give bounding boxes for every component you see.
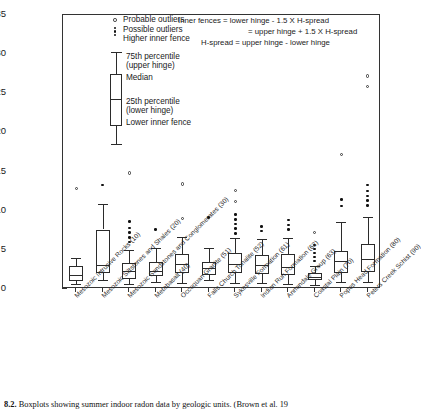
possible-outlier-point	[366, 204, 369, 207]
upper-inner-fence-cap	[283, 238, 293, 239]
median-line	[69, 275, 83, 276]
lower-inner-fence-cap	[71, 284, 81, 285]
possible-outlier-point	[287, 228, 290, 231]
possible-outlier-point	[287, 219, 290, 222]
legend-label-higher-inner-fence: Higher inner fence	[123, 34, 190, 45]
figure-caption-number: 8.2.	[4, 400, 17, 409]
possible-outlier-point	[287, 224, 290, 227]
y-tick-label: 25	[0, 87, 6, 97]
figure-caption-text: Boxplots showing summer indoor radon dat…	[19, 400, 288, 409]
probable-outlier-point	[128, 171, 131, 174]
probable-outlier-point	[234, 189, 237, 192]
lower-inner-fence-cap	[124, 284, 134, 285]
upper-whisker	[368, 217, 369, 244]
possible-outlier-point	[260, 225, 263, 228]
lower-inner-fence-cap	[257, 283, 267, 284]
hinge-box	[69, 266, 83, 281]
upper-inner-fence-cap	[363, 217, 373, 218]
possible-outlier-point	[234, 218, 237, 221]
y-tick-label: 35	[0, 9, 6, 19]
possible-outlier-point	[366, 184, 369, 187]
legend-schematic-boxplot	[109, 37, 123, 145]
boxplot-10	[69, 15, 83, 289]
boxplot-52	[202, 15, 216, 289]
formula-h-spread: H-spread = upper hinge - lower hinge	[201, 37, 330, 48]
possible-outlier-point	[234, 213, 237, 216]
lower-inner-fence-cap	[283, 284, 293, 285]
figure-caption: 8.2. Boxplots showing summer indoor rado…	[4, 400, 388, 409]
probable-outlier-point	[366, 85, 369, 88]
upper-whisker	[341, 222, 342, 251]
boxplot-80	[334, 15, 348, 289]
probable-outlier-point	[366, 74, 369, 77]
formula-inner-fences-lower: Inner fences = lower hinge - 1.5 X H-spr…	[178, 15, 329, 26]
upper-inner-fence-cap	[336, 222, 346, 223]
possible-outlier-point	[366, 199, 369, 202]
probable-outlier-point	[234, 200, 237, 203]
possible-outlier-point	[128, 220, 131, 223]
probable-outlier-point	[181, 217, 184, 220]
lower-whisker	[182, 273, 183, 282]
possible-outlier-point	[128, 227, 131, 230]
y-tick-label: 10	[0, 205, 6, 215]
lower-inner-fence-cap	[230, 283, 240, 284]
legend-lower-whisker	[116, 126, 117, 144]
upper-whisker	[76, 258, 77, 267]
lower-inner-fence-cap	[177, 283, 187, 284]
y-tick-label: 5	[0, 244, 6, 254]
upper-inner-fence-cap	[98, 204, 108, 205]
possible-outlier-point	[366, 195, 369, 198]
lower-inner-fence-cap	[98, 280, 108, 281]
boxplot-61	[228, 15, 242, 289]
y-tick-label: 20	[0, 126, 6, 136]
probable-outlier-point	[340, 153, 343, 156]
possible-outlier-point	[366, 190, 369, 193]
upper-inner-fence-cap	[71, 258, 81, 259]
possible-outlier-point	[154, 228, 157, 231]
legend-median-line	[110, 99, 122, 100]
lower-whisker	[235, 273, 236, 282]
y-tick-label: 0	[0, 283, 6, 293]
possible-outlier-point	[340, 205, 343, 208]
possible-outlier-point	[234, 227, 237, 230]
possible-outlier-point	[313, 256, 316, 259]
upper-whisker	[156, 248, 157, 263]
possible-outlier-point	[260, 230, 263, 233]
boxplot-20	[96, 15, 110, 289]
legend-annotation-upper-hinge-line2: (upper hinge)	[126, 61, 175, 72]
possible-outlier-point	[340, 198, 343, 201]
legend-upper-fence-cap	[111, 52, 122, 53]
boxplot-90	[361, 15, 375, 289]
probable-outlier-point	[181, 182, 184, 185]
formula-inner-fences-upper: = upper hinge + 1.5 X H-spread	[248, 26, 357, 37]
probable-outlier-point	[313, 231, 316, 234]
possible-outlier-point	[234, 223, 237, 226]
lower-whisker	[288, 275, 289, 284]
lower-inner-fence-cap	[204, 280, 214, 281]
upper-inner-fence-cap	[257, 239, 267, 240]
upper-whisker	[209, 248, 210, 261]
y-tick-mark	[62, 288, 67, 289]
possible-outlier-point	[234, 232, 237, 235]
lower-inner-fence-cap	[336, 282, 346, 283]
possible-outlier-point	[128, 231, 131, 234]
legend-upper-whisker	[116, 52, 117, 74]
legend-box	[110, 74, 122, 126]
upper-whisker	[235, 238, 236, 253]
y-tick-label: 15	[0, 166, 6, 176]
lower-inner-fence-cap	[363, 282, 373, 283]
possible-outlier-point	[101, 184, 104, 187]
legend-probable-outlier-icon	[113, 18, 117, 22]
upper-whisker	[129, 250, 130, 263]
lower-whisker	[262, 274, 263, 283]
upper-inner-fence-cap	[204, 248, 214, 249]
legend-annotation-median: Median	[126, 73, 153, 84]
legend-annotation-lower-inner-fence: Lower inner fence	[126, 118, 191, 129]
legend-lower-fence-cap	[111, 144, 122, 145]
probable-outlier-point	[75, 187, 78, 190]
possible-outlier-point	[313, 252, 316, 255]
upper-inner-fence-cap	[230, 238, 240, 239]
y-tick-label: 30	[0, 48, 6, 58]
upper-whisker	[103, 204, 104, 229]
